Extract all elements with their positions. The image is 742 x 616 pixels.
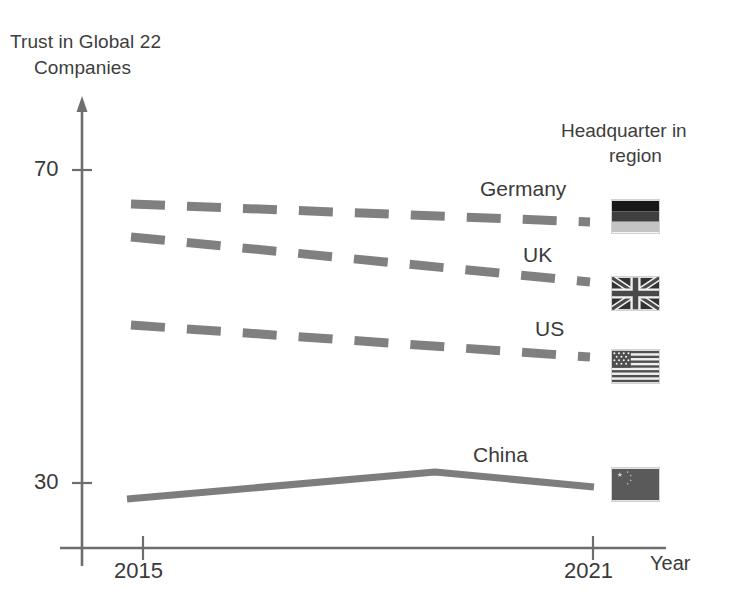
uk-flag-icon (612, 277, 659, 310)
series-line-china (127, 472, 594, 499)
series-label-germany: Germany (480, 177, 566, 201)
chart-figure: Trust in Global 22 Companies Headquarter… (0, 0, 742, 616)
series-line-us (131, 325, 590, 357)
y-axis-arrow-icon (77, 96, 88, 112)
china-flag-icon (612, 468, 659, 501)
series-line-uk (131, 237, 590, 282)
germany-flag-icon (612, 200, 659, 233)
series-line-germany (131, 204, 590, 222)
series-label-us: US (535, 317, 564, 341)
series-label-china: China (473, 443, 528, 467)
series-label-uk: UK (523, 243, 552, 267)
x-axis (60, 536, 666, 560)
us-flag-icon (612, 350, 659, 383)
y-axis (72, 96, 92, 566)
